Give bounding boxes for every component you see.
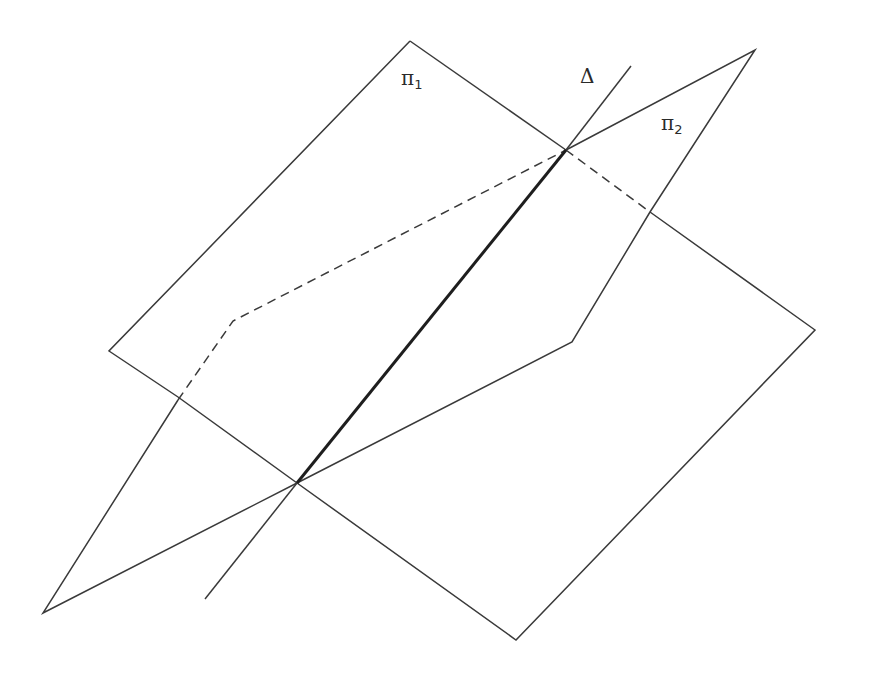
plane-pi1-edge-top-right (410, 41, 566, 150)
label-delta: Δ (580, 66, 594, 86)
plane-pi1-hidden-edge (566, 150, 650, 212)
plane-pi2-hidden-edge (178, 150, 566, 400)
line-delta-intersection (297, 150, 566, 483)
diagram-canvas (0, 0, 870, 681)
line-delta-lower (205, 483, 297, 599)
plane-pi2-edge-top (43, 50, 755, 613)
plane-pi1-edge-top-left (109, 41, 410, 397)
plane-pi1-edge-bottom (178, 212, 815, 640)
label-pi2: π2 (661, 113, 682, 136)
label-pi1: π1 (401, 68, 422, 91)
line-delta-upper (566, 66, 631, 150)
